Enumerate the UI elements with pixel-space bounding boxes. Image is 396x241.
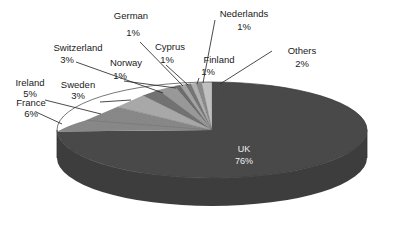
label-ireland-pct: 5% [23, 88, 37, 99]
label-finland-name: Finland [203, 54, 234, 65]
label-sweden-name: Sweden [61, 79, 95, 90]
label-nederlands-pct: 1% [237, 21, 251, 32]
label-uk-name: UK [238, 144, 251, 154]
label-norway-pct: 1% [113, 70, 127, 81]
label-finland-pct: 1% [201, 66, 215, 77]
label-norway-name: Norway [110, 57, 142, 68]
label-uk-pct: 76% [235, 156, 253, 166]
label-ireland-name: Ireland [15, 77, 44, 88]
label-france-pct: 6% [24, 108, 38, 119]
label-others-name: Others [288, 45, 317, 56]
pie-chart-canvas: France 6% Ireland 5% Sweden 3% Switzerla… [0, 0, 396, 241]
label-cyprus-name: Cyprus [155, 41, 185, 52]
label-others-pct: 2% [295, 58, 309, 69]
label-sweden-pct: 3% [71, 90, 85, 101]
pie-chart: France 6% Ireland 5% Sweden 3% Switzerla… [0, 0, 396, 241]
label-switzerland-pct: 3% [60, 54, 74, 65]
label-german-name: German [114, 10, 148, 21]
label-german-pct: 1% [126, 27, 140, 38]
label-switzerland-name: Switzerland [53, 42, 102, 53]
label-nederlands-name: Nederlands [220, 8, 269, 19]
label-cyprus-pct: 1% [160, 54, 174, 65]
